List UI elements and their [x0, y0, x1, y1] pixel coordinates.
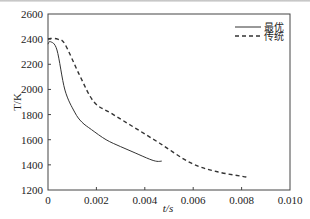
axis-ticks: 00.0020.0040.0060.0080.01012001400160018…: [21, 8, 303, 206]
y-tick-label: 2400: [21, 33, 44, 45]
y-tick-label: 2000: [21, 83, 44, 95]
x-tick-label: 0: [45, 194, 51, 206]
x-tick-label: 0.004: [132, 194, 157, 206]
y-axis-label: T/K: [11, 93, 23, 111]
x-tick-label: 0.002: [84, 194, 109, 206]
y-tick-label: 1200: [21, 184, 44, 196]
y-tick-label: 1800: [21, 109, 44, 121]
y-tick-label: 1400: [21, 159, 44, 171]
y-tick-label: 2200: [21, 58, 44, 70]
x-axis-label: t/s: [163, 202, 173, 214]
plot-frame: [48, 14, 290, 190]
series-line-optimal: [48, 41, 162, 161]
series-group: [48, 38, 246, 177]
series-line-traditional: [48, 38, 246, 177]
legend: 最优传统: [235, 21, 284, 42]
x-tick-label: 0.006: [181, 194, 206, 206]
y-tick-label: 1600: [21, 134, 44, 146]
plot-border: [48, 14, 290, 190]
legend-label: 传统: [264, 30, 284, 42]
y-tick-label: 2600: [21, 8, 44, 20]
x-tick-label: 0.008: [229, 194, 254, 206]
x-tick-label: 0.010: [278, 194, 303, 206]
line-chart: 00.0020.0040.0060.0080.01012001400160018…: [0, 0, 310, 219]
